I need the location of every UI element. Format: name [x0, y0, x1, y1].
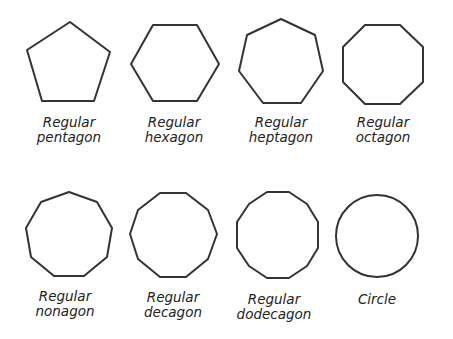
label-line1: Regular: [124, 115, 224, 130]
label-octagon: Regular octagon: [333, 115, 433, 145]
label-line2: nonagon: [15, 304, 115, 319]
hexagon-shape: [131, 25, 219, 101]
label-line1: Regular: [19, 115, 119, 130]
dodecagon-shape: [237, 192, 318, 278]
nonagon-shape: [26, 192, 112, 276]
heptagon-shape: [239, 19, 323, 103]
label-line1: Regular: [224, 292, 324, 307]
label-line1: Regular: [333, 115, 433, 130]
label-line2: pentagon: [19, 130, 119, 145]
label-line2: heptagon: [231, 130, 331, 145]
label-heptagon: Regular heptagon: [231, 115, 331, 145]
label-line2: decagon: [123, 305, 223, 320]
pentagon-shape: [27, 22, 110, 101]
octagon-shape: [343, 25, 423, 104]
label-dodecagon: Regular dodecagon: [224, 292, 324, 322]
label-hexagon: Regular hexagon: [124, 115, 224, 145]
label-circle: Circle: [327, 292, 427, 307]
label-line2: hexagon: [124, 130, 224, 145]
label-line1: Circle: [327, 292, 427, 307]
label-line1: Regular: [123, 290, 223, 305]
label-pentagon: Regular pentagon: [19, 115, 119, 145]
label-line2: dodecagon: [224, 307, 324, 322]
decagon-shape: [130, 193, 217, 277]
label-decagon: Regular decagon: [123, 290, 223, 320]
label-line1: Regular: [15, 289, 115, 304]
label-line2: octagon: [333, 130, 433, 145]
label-nonagon: Regular nonagon: [15, 289, 115, 319]
label-line1: Regular: [231, 115, 331, 130]
circle-shape: [336, 195, 418, 277]
